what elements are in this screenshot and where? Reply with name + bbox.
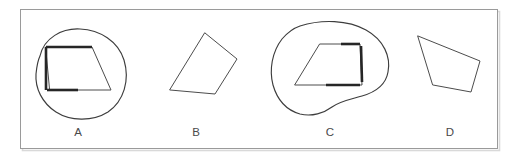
panel-label-b: B	[192, 126, 200, 138]
highlight-edge	[361, 46, 362, 82]
figure-container: A B C D	[0, 0, 515, 162]
panel-label-a: A	[74, 126, 82, 138]
shapes-figure: A B C D	[0, 0, 515, 162]
panel-label-c: C	[326, 126, 334, 138]
panel-label-d: D	[446, 126, 454, 138]
